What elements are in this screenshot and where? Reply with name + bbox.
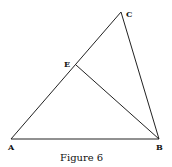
segment-ac <box>11 12 121 139</box>
point-label-a: A <box>8 143 14 151</box>
point-label-e: E <box>64 60 70 68</box>
point-label-b: B <box>156 143 163 151</box>
geometry-diagram <box>0 0 172 167</box>
point-label-c: C <box>126 10 132 18</box>
segment-bc <box>121 12 159 139</box>
segment-eb <box>76 65 159 139</box>
figure-caption: Figure 6 <box>60 153 103 163</box>
